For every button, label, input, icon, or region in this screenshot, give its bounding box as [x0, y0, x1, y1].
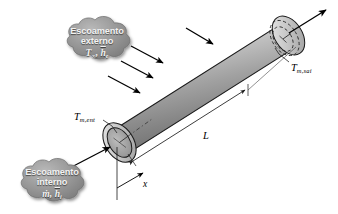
- diagram-vector-layer: [0, 0, 338, 214]
- external-flow-arrow-1: [131, 46, 163, 63]
- external-flow-arrow-3: [108, 76, 140, 93]
- callout-cloud-external: [67, 16, 130, 59]
- figure-canvas: Escoamento externo T∞, he Escoamento int…: [0, 0, 338, 214]
- label-inlet-temperature: Tm,ent: [74, 112, 95, 123]
- external-flow-arrow-2: [121, 61, 153, 78]
- label-axis-x: x: [143, 180, 147, 190]
- label-outlet-temperature: Tm,sai: [291, 63, 312, 74]
- label-length: L: [203, 131, 209, 142]
- external-flow-arrow-4: [186, 28, 213, 44]
